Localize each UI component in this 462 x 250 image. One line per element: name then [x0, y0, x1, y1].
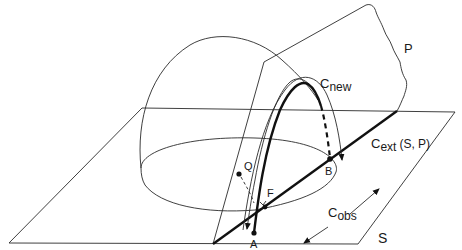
- label-point-q: Q: [244, 160, 253, 172]
- label-point-a: A: [250, 238, 258, 250]
- point-b-dot: [327, 156, 333, 162]
- label-c-new-main: C: [320, 76, 329, 91]
- label-point-b: B: [325, 165, 332, 177]
- label-c-obs: Cobs: [328, 205, 357, 223]
- label-c-obs-sub: obs: [337, 209, 356, 223]
- label-c-ext-main: C: [371, 136, 380, 151]
- c-new-dashed-curve: [321, 106, 330, 158]
- point-q-dot: [236, 171, 241, 176]
- label-c-ext-sub: ext: [380, 140, 397, 154]
- geometry-diagram: P S Cnew Cext(S, P) Cobs A B Q F: [0, 0, 462, 250]
- point-a-dot: [251, 230, 256, 235]
- label-plane-s: S: [378, 230, 387, 246]
- label-plane-p: P: [404, 41, 413, 56]
- label-point-f: F: [267, 187, 274, 199]
- c-new-curve: [254, 83, 321, 233]
- label-c-obs-main: C: [328, 205, 337, 220]
- dome-outer-arc: [140, 37, 318, 168]
- c-ext-line: [213, 111, 397, 244]
- f-angle-mark: [260, 201, 266, 205]
- label-c-new-sub: new: [329, 80, 351, 94]
- label-c-ext: Cext(S, P): [371, 136, 430, 154]
- label-c-ext-args: (S, P): [399, 137, 430, 151]
- c-obs-arrow-lower: [304, 227, 328, 243]
